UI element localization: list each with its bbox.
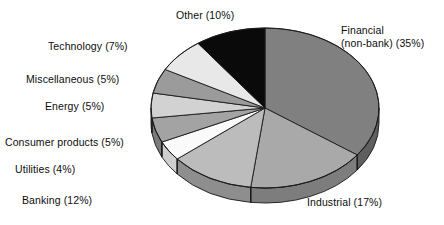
pie-label-banking: Banking (12%) — [22, 194, 92, 207]
pie-label-technology: Technology (7%) — [48, 40, 128, 53]
pie-label-financial: Financial(non-bank) (35%) — [341, 24, 424, 49]
pie-label-utilities: Utilities (4%) — [15, 163, 75, 176]
pie-label-line: (non-bank) (35%) — [341, 37, 424, 50]
pie-label-other: Other (10%) — [176, 9, 234, 22]
pie-label-energy: Energy (5%) — [45, 100, 104, 113]
clipped-caption-artifact: ………………… — [230, 218, 444, 225]
pie-top-faces — [151, 28, 379, 188]
pie-label-industrial: Industrial (17%) — [307, 196, 382, 209]
pie-label-consumer-products: Consumer products (5%) — [5, 136, 124, 149]
pie-chart-figure: Other (10%) Technology (7%) Miscellaneou… — [0, 0, 444, 225]
pie-label-miscellaneous: Miscellaneous (5%) — [26, 73, 119, 86]
pie-label-line: Financial — [341, 24, 424, 37]
